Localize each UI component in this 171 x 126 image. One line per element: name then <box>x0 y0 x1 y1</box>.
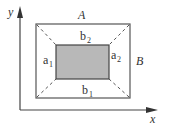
svg-text:1: 1 <box>89 90 93 99</box>
label-a2: a 2 <box>111 48 121 64</box>
outer-label-B: B <box>136 54 144 68</box>
svg-text:b: b <box>82 83 88 97</box>
y-axis-arrow-icon <box>17 6 23 18</box>
dash-top-right <box>109 25 129 45</box>
rectangle-diagram: y x A B b 2 a 1 a 2 b 1 <box>0 0 171 126</box>
dash-top-left <box>37 25 56 45</box>
label-a1: a 1 <box>43 53 53 69</box>
dash-bottom-right <box>109 79 129 97</box>
label-b2: b 2 <box>80 29 91 45</box>
inner-rectangle <box>56 45 109 79</box>
dash-bottom-left <box>37 79 56 97</box>
x-axis-label: x <box>149 112 156 126</box>
outer-label-A: A <box>77 8 86 22</box>
svg-text:2: 2 <box>117 55 121 64</box>
svg-text:2: 2 <box>87 36 91 45</box>
svg-text:1: 1 <box>49 60 53 69</box>
svg-text:b: b <box>80 29 86 43</box>
label-b1: b 1 <box>82 83 93 99</box>
y-axis-label: y <box>7 5 14 19</box>
